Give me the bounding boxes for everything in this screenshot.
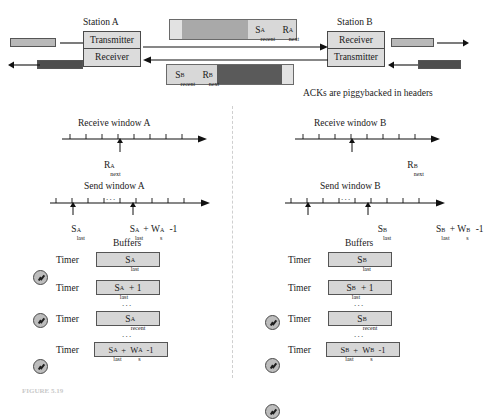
figure-caption: FIGURE 5.19 [22, 387, 63, 395]
send-window-b-title: Send window B [320, 181, 381, 191]
timer-label-b-1: Timer [288, 256, 311, 266]
packet-b-header: SBrecent RBnext [167, 65, 217, 84]
buffer-b-4-label: SBlast + WBs -1 [340, 345, 385, 355]
timer-label-a-1: Timer [56, 256, 79, 266]
receive-window-b-pointer [348, 138, 356, 152]
buffers-b-ellipsis-1: ... [354, 298, 364, 308]
station-a-cell-transmitter: Transmitter [84, 32, 140, 49]
send-window-b-label-left: SBlast [378, 224, 383, 234]
timer-label-b-4: Timer [288, 346, 311, 356]
buffer-a-2: SAlast + 1 [96, 280, 160, 295]
station-a-box: Transmitter Receiver [83, 31, 141, 67]
send-window-b-ellipsis: ... [341, 192, 351, 202]
buffer-b-1-label: SBlast [357, 255, 362, 265]
buffers-a-title: Buffers [113, 238, 141, 248]
buffer-b-2: SBlast + 1 [328, 280, 392, 295]
buffer-a-1-label: SAlast [125, 255, 130, 265]
receive-window-b-axis [295, 131, 440, 143]
buffers-a-ellipsis-2: ... [122, 329, 132, 339]
receive-window-a-axis [62, 131, 207, 143]
send-window-b-label-right: SBlast + WBs -1 [436, 224, 484, 234]
timer-label-a-4: Timer [56, 346, 79, 356]
section-divider [232, 106, 233, 378]
send-window-b-pointer-right [364, 202, 372, 215]
timer-icon-b-1 [265, 315, 280, 330]
packet-a-field-r-next: RAnext [282, 25, 288, 35]
send-window-a-pointer-right [129, 202, 137, 215]
timer-label-b-3: Timer [288, 315, 311, 325]
receive-window-a-pointer [116, 138, 124, 152]
arrow-out-of-receiver-b [437, 37, 469, 49]
timer-icon-b-3 [265, 404, 280, 419]
receive-window-a-marker-label: RAnext [104, 160, 110, 170]
buffer-a-3-label: SArecent [125, 314, 130, 324]
packet-b-body [217, 65, 282, 84]
send-window-a-pointer-left [69, 202, 77, 215]
packet-b-to-a: SBrecent RBnext [166, 64, 294, 85]
frame-inbound-a [10, 38, 56, 47]
frame-outbound-b [391, 38, 434, 47]
buffer-a-3: SArecent [96, 311, 160, 326]
buffer-b-3-label: SBrecent [357, 314, 362, 324]
timer-label-a-3: Timer [56, 315, 79, 325]
frame-inbound-b [418, 60, 461, 69]
receive-window-a-title: Receive window A [78, 118, 150, 128]
send-window-a-title: Send window A [84, 181, 145, 191]
arrow-into-transmitter-b [388, 59, 418, 71]
piggyback-note: ACKs are piggybacked in headers [303, 89, 433, 99]
packet-a-header: SArecent RAnext [248, 20, 296, 39]
send-window-a-ellipsis: ... [106, 192, 116, 202]
send-window-b-pointer-left [304, 202, 312, 215]
station-b-cell-receiver: Receiver [328, 32, 384, 49]
station-a-title: Station A [83, 17, 119, 27]
timer-label-a-2: Timer [56, 284, 79, 294]
send-window-a-label-right: SAlast + WAs -1 [130, 224, 178, 234]
receive-window-b-title: Receive window B [314, 118, 386, 128]
arrow-out-of-receiver-a [8, 59, 40, 71]
channel-arrow-b-to-a [143, 55, 328, 65]
buffer-a-4: SAlast + WAs -1 [94, 342, 168, 357]
buffers-b-title: Buffers [345, 238, 373, 248]
packet-b-tip [282, 65, 293, 84]
timer-icon-a-3 [33, 359, 48, 374]
packet-a-body [182, 20, 248, 39]
channel-arrow-a-to-b [143, 42, 328, 52]
buffer-b-4: SBlast + WBs -1 [326, 342, 400, 357]
receive-window-b-marker-label: RBnext [407, 160, 413, 170]
timer-label-b-2: Timer [288, 284, 311, 294]
packet-a-to-b: SArecent RAnext [169, 19, 297, 40]
frame-outbound-a [37, 60, 83, 69]
buffer-a-2-label: SAlast + 1 [114, 283, 141, 293]
packet-b-field-r-next: RBnext [202, 70, 208, 80]
timer-icon-a-1 [33, 270, 48, 285]
buffer-b-2-label: SBlast + 1 [346, 283, 373, 293]
buffers-b-ellipsis-2: ... [354, 329, 364, 339]
station-b-box: Receiver Transmitter [327, 31, 385, 67]
timer-icon-b-2 [265, 358, 280, 373]
buffer-a-4-label: SAlast + WAs -1 [108, 345, 153, 355]
station-a-cell-receiver: Receiver [84, 49, 140, 66]
timer-icon-a-2 [33, 313, 48, 328]
send-window-a-label-left: SAlast [71, 224, 76, 234]
buffer-a-1: SAlast [96, 252, 160, 267]
station-b-title: Station B [337, 17, 373, 27]
packet-a-field-s-recent: SArecent [255, 25, 260, 35]
buffer-b-1: SBlast [328, 252, 392, 267]
buffers-a-ellipsis-1: ... [122, 298, 132, 308]
packet-b-field-s-recent: SBrecent [175, 70, 180, 80]
packet-a-tip [170, 20, 182, 39]
station-b-cell-transmitter: Transmitter [328, 49, 384, 66]
buffer-b-3: SBrecent [328, 311, 392, 326]
